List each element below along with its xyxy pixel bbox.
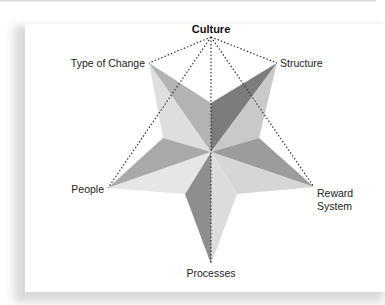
label-processes: Processes — [186, 267, 235, 279]
connector-structure — [211, 37, 277, 63]
label-people: People — [71, 183, 104, 195]
connector-type-of-change — [149, 37, 211, 63]
label-reward-system-line1: Reward — [317, 187, 353, 199]
label-reward-system-line2: System — [317, 200, 352, 212]
culture-connectors — [108, 37, 314, 264]
label-type-of-change: Type of Change — [71, 57, 145, 69]
label-structure: Structure — [280, 57, 323, 69]
label-culture: Culture — [192, 23, 231, 35]
